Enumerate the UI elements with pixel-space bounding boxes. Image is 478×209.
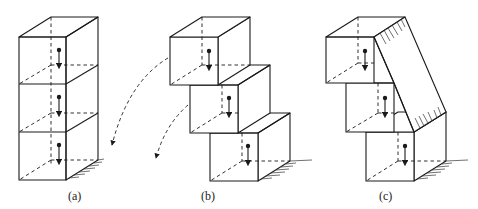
ground-hatch — [69, 159, 104, 178]
panel-b — [112, 17, 312, 181]
panel-label-b: (b) — [201, 189, 215, 204]
panel-label-a: (a) — [68, 189, 81, 204]
panel-a — [19, 17, 104, 180]
panel-c — [326, 17, 468, 181]
panel-label-c: (c) — [379, 189, 392, 204]
diagram-canvas — [0, 0, 478, 209]
